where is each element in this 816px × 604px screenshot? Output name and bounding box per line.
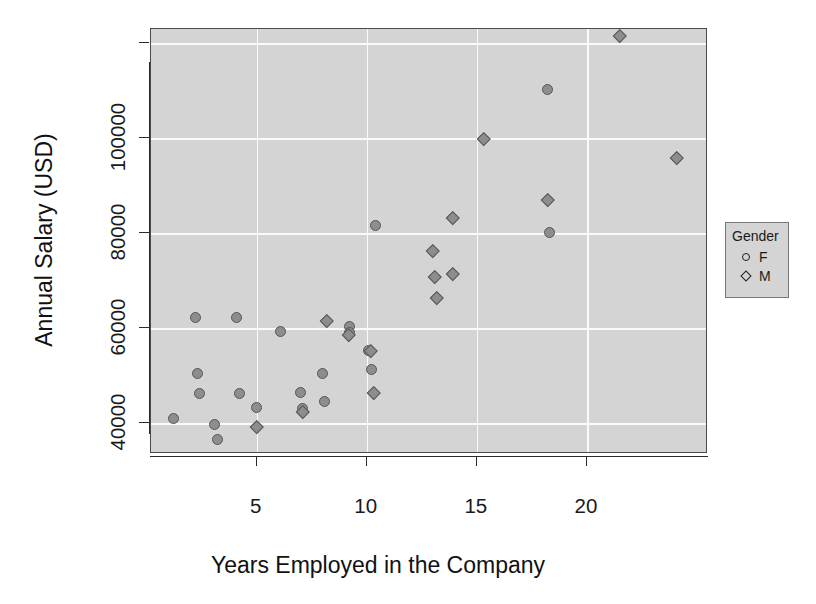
data-point-f (319, 396, 330, 407)
data-point-f (209, 419, 220, 430)
data-point-m (613, 29, 626, 42)
data-point-f (231, 312, 242, 323)
legend-title: Gender (732, 228, 788, 244)
data-point-m (446, 211, 459, 224)
gridline-vertical (257, 29, 259, 452)
data-point-f (366, 364, 377, 375)
y-tick (139, 137, 149, 138)
y-tick (139, 42, 149, 43)
data-point-m (541, 193, 554, 206)
x-tick-label: 10 (354, 494, 377, 518)
y-axis-label: Annual Salary (USD) (31, 133, 58, 346)
x-axis-label-text: Years Employed in the Company (211, 552, 665, 578)
circle-marker-icon (738, 253, 754, 261)
gridline-horizontal (151, 328, 706, 330)
data-point-f (192, 368, 203, 379)
gridline-horizontal (151, 423, 706, 425)
y-tick (139, 327, 149, 328)
data-point-m (428, 270, 441, 283)
data-point-f (194, 388, 205, 399)
y-tick-label: 100000 (106, 103, 130, 171)
data-point-f (317, 368, 328, 379)
data-point-f (542, 84, 553, 95)
data-point-m (367, 386, 380, 399)
data-point-f (168, 413, 179, 424)
legend-item-f-label: F (759, 249, 768, 265)
y-tick (139, 232, 149, 233)
y-tick-label: 40000 (106, 394, 130, 451)
data-point-m (477, 132, 490, 145)
x-tick (476, 456, 477, 466)
data-point-m (446, 267, 459, 280)
legend: Gender F M (725, 222, 789, 298)
data-point-m (426, 244, 439, 257)
legend-item-m-label: M (759, 268, 771, 284)
x-tick-label: 15 (464, 494, 487, 518)
legend-item-f[interactable]: F (732, 247, 788, 266)
x-tick (366, 456, 367, 466)
y-tick-label: 80000 (106, 204, 130, 261)
y-axis-line (149, 62, 150, 434)
x-axis-line (150, 456, 708, 457)
data-point-f (275, 326, 286, 337)
scatter-plot-figure: 5101520 400006000080000100000 Years Empl… (0, 0, 816, 604)
gridline-vertical (587, 29, 589, 452)
plot-panel (150, 28, 707, 453)
gridline-vertical (367, 29, 369, 452)
gridline-horizontal (151, 43, 706, 45)
x-tick (256, 456, 257, 466)
gridline-horizontal (151, 233, 706, 235)
data-point-f (251, 402, 262, 413)
data-point-m (430, 291, 443, 304)
data-point-f (234, 388, 245, 399)
x-tick-label: 20 (575, 494, 598, 518)
data-point-f (370, 220, 381, 231)
x-tick-label: 5 (250, 494, 261, 518)
data-point-f (544, 227, 555, 238)
gridline-vertical (477, 29, 479, 452)
legend-item-m[interactable]: M (732, 266, 788, 285)
data-point-f (190, 312, 201, 323)
diamond-marker-icon (738, 272, 754, 280)
x-tick (586, 456, 587, 466)
gridline-horizontal (151, 138, 706, 140)
data-point-m (670, 151, 683, 164)
x-axis-label: Years Employed in the Company (0, 552, 816, 579)
data-point-f (295, 387, 306, 398)
data-point-m (320, 314, 333, 327)
data-point-f (212, 434, 223, 445)
y-tick-label: 60000 (106, 299, 130, 356)
y-tick (139, 422, 149, 423)
